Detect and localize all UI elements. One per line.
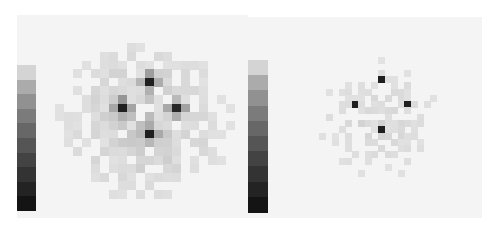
heatmap-cell [118, 95, 127, 104]
heatmap-cell [217, 156, 226, 165]
heatmap-cell [154, 130, 163, 139]
heatmap-cell [190, 164, 199, 173]
heatmap-cell [163, 104, 172, 113]
heatmap-cell [127, 130, 136, 139]
heatmap-cell [365, 158, 372, 165]
heatmap-cell [326, 114, 333, 121]
colorbar-step [248, 151, 268, 167]
heatmap-cell [199, 95, 208, 104]
heatmap-cell [100, 78, 109, 87]
heatmap-cell [118, 69, 127, 78]
heatmap-cell [163, 173, 172, 182]
heatmap-cell [332, 139, 339, 146]
heatmap-cell [145, 130, 154, 139]
heatmap-cell [163, 164, 172, 173]
heatmap-cell [163, 61, 172, 70]
heatmap-cell [136, 156, 145, 165]
heatmap-cell [417, 120, 424, 127]
heatmap-cell [411, 101, 418, 108]
heatmap-cell [181, 69, 190, 78]
heatmap-cell [154, 112, 163, 121]
heatmap-cell [64, 130, 73, 139]
colorbar-step [17, 123, 36, 138]
heatmap-cell [172, 138, 181, 147]
heatmap-cell [100, 138, 109, 147]
heatmap-cell [100, 173, 109, 182]
heatmap-cell [136, 43, 145, 52]
heatmap-cell [371, 151, 378, 158]
heatmap-cell [109, 190, 118, 199]
heatmap-cell [172, 112, 181, 121]
right-heatmap [280, 26, 476, 214]
heatmap-cell [118, 138, 127, 147]
colorbar-step [17, 138, 36, 153]
heatmap-cell [127, 104, 136, 113]
heatmap-cell [82, 61, 91, 70]
heatmap-cell [391, 107, 398, 114]
heatmap-cell [91, 130, 100, 139]
heatmap-cell [190, 156, 199, 165]
colorbar-step [17, 182, 36, 197]
heatmap-cell [118, 78, 127, 87]
heatmap-cell [154, 173, 163, 182]
heatmap-cell [199, 104, 208, 113]
heatmap-cell [181, 130, 190, 139]
heatmap-cell [118, 112, 127, 121]
heatmap-cell [172, 95, 181, 104]
heatmap-cell [208, 130, 217, 139]
left-colorbar [17, 65, 36, 211]
heatmap-cell [358, 170, 365, 177]
heatmap-cell [145, 138, 154, 147]
colorbar-step [17, 196, 36, 211]
colorbar-step [248, 90, 268, 106]
heatmap-cell [127, 112, 136, 121]
colorbar-step [248, 106, 268, 122]
heatmap-cell [226, 121, 235, 130]
heatmap-cell [55, 104, 64, 113]
heatmap-cell [217, 130, 226, 139]
heatmap-cell [172, 104, 181, 113]
heatmap-cell [172, 164, 181, 173]
heatmap-cell [154, 190, 163, 199]
heatmap-cell [100, 69, 109, 78]
colorbar-step [248, 166, 268, 182]
colorbar-step [248, 75, 268, 91]
heatmap-cell [163, 112, 172, 121]
heatmap-cell [163, 156, 172, 165]
colorbar-step [17, 94, 36, 109]
heatmap-cell [91, 69, 100, 78]
colorbar-step [17, 153, 36, 168]
heatmap-cell [145, 112, 154, 121]
heatmap-cell [109, 138, 118, 147]
colorbar-step [17, 80, 36, 95]
heatmap-cell [339, 107, 346, 114]
right-colorbar [248, 60, 268, 212]
heatmap-cell [385, 164, 392, 171]
heatmap-cell [404, 107, 411, 114]
colorbar-step [248, 182, 268, 198]
heatmap-cell [163, 86, 172, 95]
heatmap-cell [154, 69, 163, 78]
heatmap-cell [181, 112, 190, 121]
heatmap-cell [136, 138, 145, 147]
heatmap-cell [199, 69, 208, 78]
heatmap-cell [127, 138, 136, 147]
heatmap-cell [127, 173, 136, 182]
heatmap-cell [398, 170, 405, 177]
heatmap-cell [109, 61, 118, 70]
heatmap-cell [326, 89, 333, 96]
heatmap-cell [181, 78, 190, 87]
heatmap-cell [127, 164, 136, 173]
heatmap-cell [154, 95, 163, 104]
heatmap-cell [163, 69, 172, 78]
heatmap-cell [127, 147, 136, 156]
heatmap-cell [163, 190, 172, 199]
heatmap-cell [136, 95, 145, 104]
heatmap-cell [73, 69, 82, 78]
heatmap-cell [378, 57, 385, 64]
heatmap-cell [64, 112, 73, 121]
heatmap-cell [145, 173, 154, 182]
heatmap-cell [190, 86, 199, 95]
heatmap-cell [145, 95, 154, 104]
colorbar-step [248, 197, 268, 213]
